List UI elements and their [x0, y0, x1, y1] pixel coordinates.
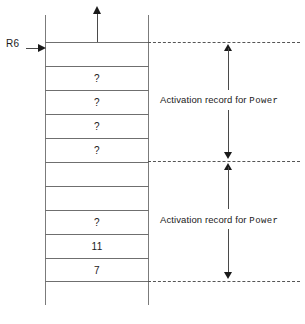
stack-cell	[45, 162, 149, 186]
stack-cell: 11	[45, 234, 149, 258]
stack-cell	[45, 186, 149, 210]
activation-record-label-upper: Activation record for Power	[158, 93, 280, 107]
activation-record-prefix-upper: Activation record for	[160, 94, 249, 105]
stack-diagram: ? ? ? ? ? 11 7 R6 Activation record for …	[0, 0, 305, 324]
span-arrow-down-icon-lower	[224, 272, 232, 279]
activation-record-routine-upper: Power	[249, 96, 278, 106]
span-arrow-shaft-upper-top	[228, 48, 229, 90]
activation-record-label-lower: Activation record for Power	[158, 213, 280, 227]
stack-growth-arrow-icon	[93, 6, 101, 14]
span-arrow-shaft-upper-bottom	[228, 110, 229, 154]
span-arrow-down-icon-upper	[224, 152, 232, 159]
stack-cell: ?	[45, 66, 149, 90]
boundary-guide-middle	[148, 161, 300, 162]
boundary-guide-bottom	[148, 281, 300, 282]
stack-growth-arrow-shaft	[97, 13, 98, 42]
boundary-guide-top	[148, 42, 300, 43]
stack-cell: ?	[45, 114, 149, 138]
span-arrow-shaft-lower-top	[228, 167, 229, 209]
stack-cell: ?	[45, 90, 149, 114]
stack-cell	[45, 42, 149, 66]
stack-pointer-label: R6	[6, 38, 19, 49]
activation-record-prefix-lower: Activation record for	[160, 214, 249, 225]
stack-cell: ?	[45, 210, 149, 234]
activation-record-routine-lower: Power	[249, 216, 278, 226]
span-arrow-shaft-lower-bottom	[228, 229, 229, 274]
stack-cell: 7	[45, 258, 149, 282]
stack-pointer-arrow-icon	[38, 44, 46, 52]
stack-cell: ?	[45, 138, 149, 162]
